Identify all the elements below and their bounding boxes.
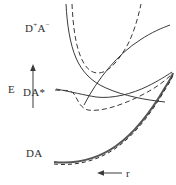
label-ct-d: D <box>25 22 33 34</box>
label-excited-state: DA* <box>23 86 45 98</box>
curve-ground-solid <box>54 73 173 162</box>
coordinate-axis <box>97 170 122 176</box>
label-charge-transfer-state: D+A− <box>25 22 50 34</box>
label-energy-axis: E <box>8 83 15 95</box>
label-coordinate-axis: r <box>126 167 130 179</box>
label-ct-minus: − <box>46 21 50 29</box>
label-ground-state: DA <box>26 147 43 159</box>
curve-excited-upper-solid <box>84 25 170 105</box>
curve-charge-transfer-dashed <box>72 4 141 73</box>
potential-energy-diagram: D+A− DA* DA E r <box>0 0 176 185</box>
label-ct-a: A <box>38 22 46 34</box>
curve-ground-dashed <box>54 75 173 164</box>
curve-charge-transfer-solid <box>66 4 165 102</box>
